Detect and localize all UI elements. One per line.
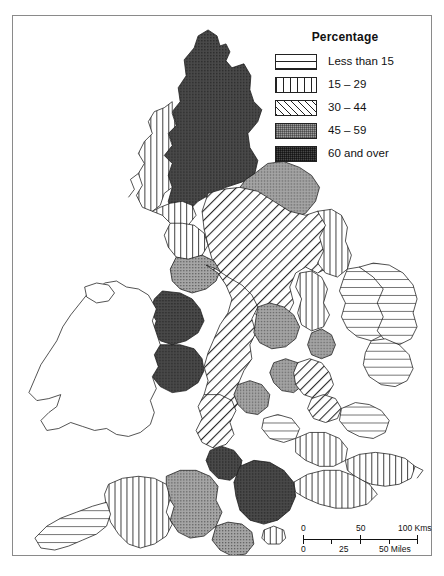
coastline-detail-north	[128, 173, 138, 197]
legend-label-45-59: 45 – 59	[328, 125, 366, 137]
area-bedfordshire[interactable]	[308, 395, 342, 423]
legend-swatch-30-44	[275, 100, 317, 116]
area-northamptonshire[interactable]	[294, 359, 334, 399]
area-humberside[interactable]	[318, 209, 352, 277]
legend-row-60-and-over[interactable]: 60 and over	[275, 145, 415, 162]
area-dorset[interactable]	[212, 522, 254, 555]
area-isle-of-wight[interactable]	[262, 526, 286, 544]
area-suffolk[interactable]	[363, 339, 413, 387]
area-lancashire[interactable]	[170, 255, 220, 293]
legend-row-30-44[interactable]: 30 – 44	[275, 99, 415, 116]
area-south-yorkshire[interactable]	[254, 303, 300, 349]
scale-km-tick-0: 0	[301, 524, 306, 533]
area-nottinghamshire[interactable]	[296, 271, 330, 331]
coastline-detail-se	[415, 466, 423, 478]
area-wiltshire[interactable]	[234, 460, 296, 524]
caption-strip	[12, 560, 432, 574]
legend-row-15-29[interactable]: 15 – 29	[275, 76, 415, 93]
legend: Percentage Less than 15 15 – 29 30 – 44 …	[275, 30, 415, 168]
legend-label-30-44: 30 – 44	[328, 102, 366, 114]
area-essex[interactable]	[339, 403, 389, 439]
map-frame: Percentage Less than 15 15 – 29 30 – 44 …	[12, 15, 432, 556]
legend-label-60-and-over: 60 and over	[328, 148, 389, 160]
area-west-midlands[interactable]	[234, 381, 270, 415]
legend-title: Percentage	[275, 30, 415, 44]
scale-tick-miles-25	[331, 539, 332, 544]
area-cornwall[interactable]	[35, 502, 111, 550]
legend-swatch-less-than-15	[275, 54, 317, 70]
scale-km-tick-100: 100 Kms	[398, 524, 432, 533]
area-merseyside[interactable]	[150, 291, 204, 345]
scale-bar-miles-labels: 0 25 50 Miles	[301, 545, 431, 555]
legend-swatch-45-59	[275, 123, 317, 139]
scale-bar-axis	[301, 535, 431, 544]
legend-label-less-than-15: Less than 15	[328, 56, 394, 68]
scale-miles-tick-50: 50 Miles	[379, 545, 411, 554]
scale-bar: 0 50 100 Kms 0 25 50 Miles	[301, 524, 431, 555]
legend-row-less-than-15[interactable]: Less than 15	[275, 53, 415, 70]
area-oxfordshire[interactable]	[262, 415, 300, 443]
scale-bar-km-labels: 0 50 100 Kms	[301, 524, 431, 534]
area-wales[interactable]	[29, 281, 160, 436]
area-devon[interactable]	[105, 476, 173, 548]
area-cheshire[interactable]	[152, 345, 204, 393]
area-cambridgeshire[interactable]	[308, 329, 336, 359]
legend-swatch-60-and-over	[275, 146, 317, 162]
scale-miles-tick-25: 25	[339, 545, 348, 554]
scale-tick-mid	[360, 535, 361, 544]
scale-km-tick-50: 50	[356, 524, 365, 533]
scale-tick-end	[417, 535, 418, 544]
area-staffordshire[interactable]	[196, 395, 236, 449]
scale-miles-tick-0: 0	[301, 545, 306, 554]
area-greater-london[interactable]	[296, 432, 348, 466]
legend-swatch-15-29	[275, 77, 317, 93]
legend-label-15-29: 15 – 29	[328, 79, 366, 91]
legend-row-45-59[interactable]: 45 – 59	[275, 122, 415, 139]
scale-tick-start	[303, 535, 304, 544]
area-somerset[interactable]	[166, 470, 222, 538]
